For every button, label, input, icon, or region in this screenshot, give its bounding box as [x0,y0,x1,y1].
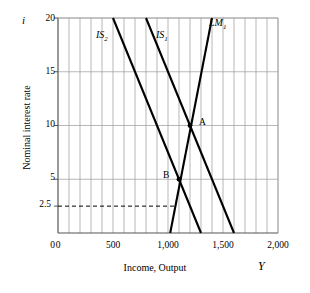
x-axis-title: Income, Output [95,262,215,273]
x-tick-label-1500: 1,500 [203,240,243,250]
y-tick-label-15: 15 [29,66,55,76]
x-tick-label-500: 500 [93,240,133,250]
curve-label-lm1-base: LM [209,17,223,28]
y-axis-symbol: i [22,14,25,26]
y-tick-label-2-5: 2.5 [25,199,51,209]
curve-label-is1-sub: 1 [164,35,168,43]
marker-point-b [177,177,182,182]
curve-label-is1: IS1 [156,29,168,43]
x-tick-label-0: 0 [38,240,78,250]
y-tick-label-20: 20 [29,13,55,23]
point-label-b: B [163,170,169,180]
point-label-a: A [199,117,206,127]
marker-point-a [188,123,193,128]
y-tick-label-5: 5 [29,172,55,182]
y-tick-label-10: 10 [29,119,55,129]
curve-label-is2: IS2 [96,29,108,43]
x-tick-label-2000: 2,000 [258,240,298,250]
curve-label-lm1-sub: 1 [223,23,227,31]
is-lm-chart-figure: i Nominal interest rate Income, Output Y… [0,0,310,293]
curve-label-is2-sub: 2 [104,35,108,43]
x-axis-symbol: Y [258,259,265,274]
x-tick-label-1000: 1,000 [148,240,188,250]
curve-label-lm1: LM1 [209,17,226,31]
